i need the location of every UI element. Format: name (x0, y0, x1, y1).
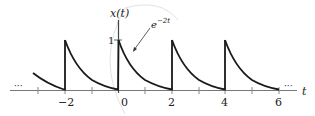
signal-plot: x(t) 1 e −2t ··· ··· t −2 0 2 4 6 (0, 0, 315, 116)
annotation-arrow (134, 28, 150, 50)
x-tick-label-2: 2 (168, 96, 175, 109)
x-tick-label-neg2: −2 (58, 96, 74, 109)
y-tick-label-1: 1 (108, 35, 114, 46)
signal-curve (33, 40, 279, 90)
x-axis-label: t (302, 85, 307, 98)
continuation-left: ··· (14, 81, 23, 91)
x-tick-label-6: 6 (275, 96, 282, 109)
continuation-right: ··· (284, 81, 293, 91)
arrowhead-icon (133, 47, 137, 52)
x-tick-label-0: 0 (121, 96, 128, 109)
y-axis-label: x(t) (110, 7, 129, 20)
annotation-exponent: −2t (157, 17, 170, 25)
x-tick-label-4: 4 (221, 96, 228, 109)
